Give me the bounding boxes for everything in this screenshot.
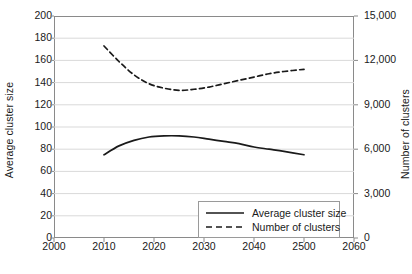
y-axis-left-tick-label: 160 — [18, 53, 52, 65]
data-series-line — [104, 136, 304, 155]
y-axis-left-tick-label: 140 — [18, 76, 52, 88]
x-axis-ticks: 2000201020202030204025002060 — [54, 240, 404, 256]
x-axis-tick-label: 2060 — [331, 240, 377, 252]
y-axis-left-ticks: 020406080100120140160180200 — [18, 16, 52, 238]
legend-item-average-cluster-size: Average cluster size — [204, 206, 334, 220]
y-axis-left-tick-label: 180 — [18, 31, 52, 43]
legend-line-dashed-icon — [204, 221, 246, 233]
y-axis-left-tick-label: 200 — [18, 9, 52, 21]
legend-line-solid-icon — [204, 207, 246, 219]
y-axis-left-title: Average cluster size — [3, 15, 17, 245]
legend-label-number-of-clusters: Number of clusters — [252, 221, 340, 233]
x-axis-tick-label: 2500 — [281, 240, 327, 252]
x-axis-tick-label: 2000 — [31, 240, 77, 252]
legend-label-average-cluster-size: Average cluster size — [252, 207, 346, 219]
chart-legend: Average cluster size Number of clusters — [198, 201, 340, 238]
y-axis-right-tick-label: 3,000 — [364, 187, 404, 199]
y-axis-right-ticks: 03,0006,0009,00012,00015,000 — [364, 16, 404, 238]
y-axis-right-tick-label: 6,000 — [364, 142, 404, 154]
y-axis-left-tick-label: 100 — [18, 120, 52, 132]
chart-container: Average cluster size Number of clusters … — [0, 0, 412, 274]
data-series-group — [104, 46, 304, 155]
x-axis-tick-label: 2040 — [231, 240, 277, 252]
x-axis-tick-label: 2010 — [81, 240, 127, 252]
y-axis-right-tick-label: 15,000 — [364, 9, 404, 21]
y-axis-left-tick-label: 60 — [18, 164, 52, 176]
y-axis-left-tick-label: 20 — [18, 209, 52, 221]
y-axis-right-tick-label: 12,000 — [364, 53, 404, 65]
y-axis-left-tick-label: 40 — [18, 187, 52, 199]
y-axis-right-tick-label: 9,000 — [364, 98, 404, 110]
y-axis-left-tick-label: 80 — [18, 142, 52, 154]
y-axis-left-tick-label: 120 — [18, 98, 52, 110]
x-axis-tick-label: 2020 — [131, 240, 177, 252]
gridlines — [54, 38, 354, 216]
x-axis-tick-label: 2030 — [181, 240, 227, 252]
legend-item-number-of-clusters: Number of clusters — [204, 220, 334, 234]
data-series-line — [104, 46, 304, 90]
